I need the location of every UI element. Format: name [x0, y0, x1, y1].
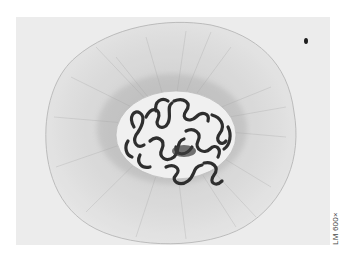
debris-speck [304, 38, 308, 44]
dark-chromatin-mass [172, 145, 196, 157]
magnification-label: LM 600× [331, 212, 340, 245]
cell-illustration [16, 17, 330, 245]
micrograph-image [16, 17, 330, 245]
